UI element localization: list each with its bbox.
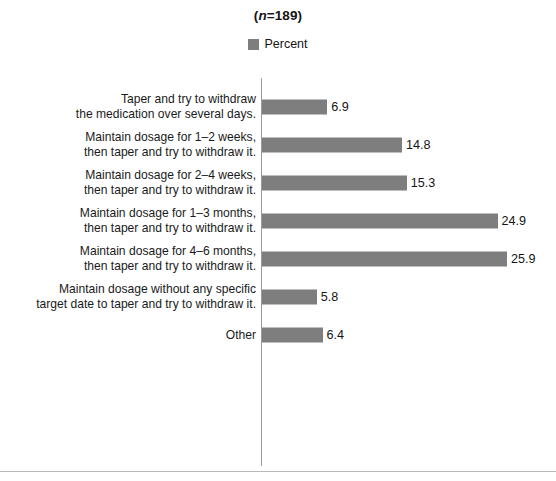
chart-legend: Percent (0, 38, 556, 50)
bar-percent (262, 328, 323, 343)
bar-percent (262, 100, 327, 115)
category-label: Taper and try to withdraw the medication… (26, 92, 256, 121)
bar-row: Other 6.4 (0, 316, 556, 354)
bar-value-label: 14.8 (406, 138, 431, 152)
category-label: Maintain dosage for 1–2 weeks, then tape… (26, 130, 256, 159)
bar-value-label: 24.9 (502, 214, 527, 228)
plot-area: Taper and try to withdraw the medication… (0, 70, 556, 470)
bar-percent (262, 252, 507, 267)
chart-title-suffix: =189) (267, 8, 302, 23)
bar-row: Taper and try to withdraw the medication… (0, 88, 556, 126)
bar-value-label: 25.9 (511, 252, 536, 266)
chart-title: (n=189) (0, 8, 556, 23)
legend-swatch-percent (248, 39, 259, 50)
bar-percent (262, 176, 407, 191)
category-label: Other (26, 328, 256, 343)
bar-value-label: 15.3 (411, 176, 436, 190)
category-label: Maintain dosage for 2–4 weeks, then tape… (26, 168, 256, 197)
bar-value-label: 6.4 (327, 328, 345, 342)
bar-row: Maintain dosage for 2–4 weeks, then tape… (0, 164, 556, 202)
bar-value-label: 5.8 (321, 290, 339, 304)
category-label: Maintain dosage for 4–6 months, then tap… (26, 244, 256, 273)
chart-title-italic-n: n (258, 8, 266, 23)
category-label: Maintain dosage without any specific tar… (26, 282, 256, 311)
category-label: Maintain dosage for 1–3 months, then tap… (26, 206, 256, 235)
bar-row: Maintain dosage without any specific tar… (0, 278, 556, 316)
bar-row: Maintain dosage for 1–3 months, then tap… (0, 202, 556, 240)
bar-row: Maintain dosage for 1–2 weeks, then tape… (0, 126, 556, 164)
bar-percent (262, 138, 402, 153)
legend-label-percent: Percent (264, 38, 307, 50)
bar-row: Maintain dosage for 4–6 months, then tap… (0, 240, 556, 278)
bar-value-label: 6.9 (331, 100, 349, 114)
bar-percent (262, 290, 317, 305)
bar-chart-figure: (n=189) Percent Taper and try to withdra… (0, 0, 556, 481)
bar-percent (262, 214, 498, 229)
bottom-rule (0, 471, 556, 472)
